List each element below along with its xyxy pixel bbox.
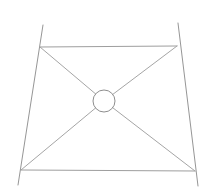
canvas-background <box>0 0 208 188</box>
line-drawing-canvas <box>0 0 208 188</box>
figure-root <box>0 0 208 188</box>
